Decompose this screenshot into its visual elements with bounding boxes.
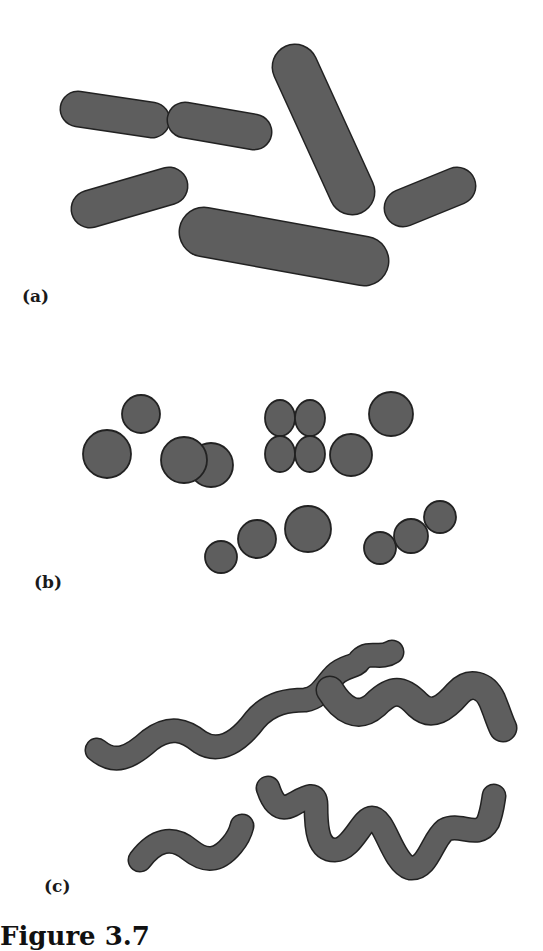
panel-label-a: (a) [22,286,49,306]
tetrad-cell [265,436,295,472]
coccus-cell [330,434,372,476]
spirillum-bacterium [268,788,494,868]
rod-bacterium [78,109,152,120]
coccus-cell [285,506,331,552]
panel-label-b: (b) [34,572,62,592]
rod-bacterium [295,67,352,192]
panel-c-spirilla [97,652,503,868]
rod-bacterium [204,232,364,261]
coccus-cell [205,541,237,573]
coccus-cell [161,437,207,483]
coccus-cell [122,395,160,433]
rod-bacterium [90,186,169,209]
panel-b-cocci [83,392,456,573]
tetrad-cell [265,400,295,436]
panel-a-bacilli [78,67,457,261]
coccus-cell [364,532,396,564]
coccus-cell [424,501,456,533]
coccus-cell [369,392,413,436]
coccus-cell [238,520,276,558]
tetrad-cell [295,400,325,436]
figure-caption-truncated: Figure 3.7 [0,921,150,951]
rod-bacterium [403,186,457,208]
panel-label-c: (c) [44,876,70,896]
rod-bacterium [185,120,254,132]
tetrad-cell [295,436,325,472]
coccus-cell [83,430,131,478]
coccus-cell [394,519,428,553]
